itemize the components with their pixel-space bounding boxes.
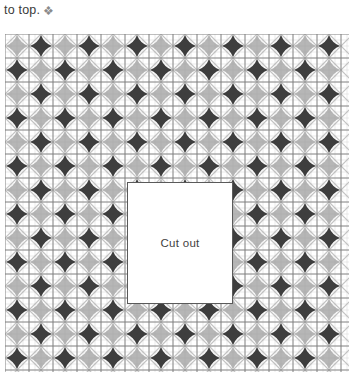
caption-label: to top.	[4, 3, 40, 17]
pattern-chart: Cut out	[5, 34, 349, 372]
diamond-flower-icon: ❖	[43, 3, 54, 19]
cut-out-region: Cut out	[127, 182, 233, 304]
cut-out-label: Cut out	[160, 237, 199, 249]
caption-text: to top.❖	[4, 2, 54, 18]
